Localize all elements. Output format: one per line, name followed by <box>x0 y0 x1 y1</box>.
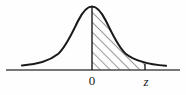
axis-tick-label-z: z <box>138 75 154 88</box>
axis-tick-label-zero: 0 <box>84 74 100 87</box>
normal-distribution-figure: 0 z <box>0 0 186 95</box>
